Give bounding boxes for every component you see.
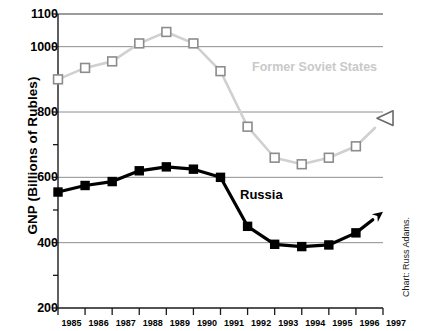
chart-figure: GNP (Billions of Rubles) 110010008006004… bbox=[0, 0, 424, 331]
chart-credit: Chart: Russ Adams. bbox=[401, 192, 411, 322]
series-label-russia: Russia bbox=[240, 187, 283, 202]
x-axis-tick-labels: 1985198619871988198919901991199219931994… bbox=[0, 0, 424, 331]
series-label-former-soviet-states: Former Soviet States bbox=[252, 60, 377, 74]
